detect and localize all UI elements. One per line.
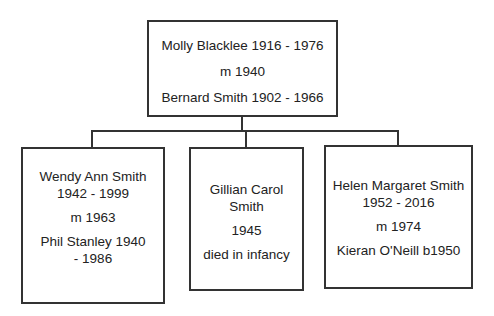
child-3-marriage: m 1974 [326, 218, 471, 235]
child-3-spouse: Kieran O'Neill b1950 [326, 242, 471, 259]
parents-box: Molly Blacklee 1916 - 1976 m 1940 Bernar… [147, 20, 338, 117]
child-3-dates: 1952 - 2016 [326, 194, 471, 211]
connector-child-2 [245, 130, 247, 148]
connector-child-3 [397, 130, 399, 146]
connector-child-1 [91, 130, 93, 148]
parents-marriage: m 1940 [149, 63, 336, 80]
child-box-1: Wendy Ann Smith 1942 - 1999 m 1963 Phil … [21, 147, 165, 304]
child-box-2: Gillian Carol Smith 1945 died in infancy [189, 147, 304, 291]
parent-2: Bernard Smith 1902 - 1966 [149, 89, 336, 106]
parent-1: Molly Blacklee 1916 - 1976 [149, 37, 336, 54]
child-1-marriage: m 1963 [23, 209, 163, 226]
child-box-3: Helen Margaret Smith 1952 - 2016 m 1974 … [324, 145, 473, 289]
child-2-dates: 1945 [191, 222, 302, 239]
child-3-name: Helen Margaret Smith [326, 177, 471, 194]
child-1-dates: 1942 - 1999 [23, 185, 163, 202]
child-2-note: died in infancy [191, 246, 302, 263]
child-2-name: Gillian Carol Smith [191, 181, 302, 215]
child-1-name: Wendy Ann Smith [23, 168, 163, 185]
child-1-spouse: Phil Stanley 1940 - 1986 [23, 233, 163, 267]
